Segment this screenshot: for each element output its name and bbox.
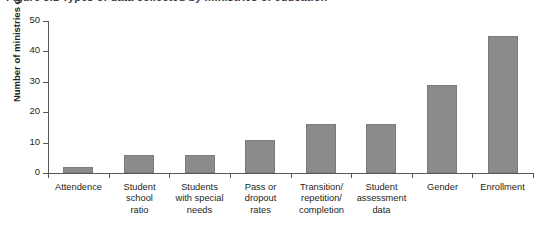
x-axis-label-line: needs <box>169 205 230 216</box>
bar <box>245 140 275 173</box>
y-tick-label: 40 <box>29 44 40 55</box>
bar <box>488 36 518 173</box>
x-axis-label-line: school <box>109 193 170 204</box>
x-tick <box>472 173 473 178</box>
x-tick <box>412 173 413 178</box>
bar <box>366 124 396 173</box>
x-axis-label-line: Pass or <box>230 182 291 193</box>
x-axis-label-line: Transition/ <box>291 182 352 193</box>
x-tick <box>351 173 352 178</box>
x-axis-label: Studentswith specialneeds <box>169 182 230 216</box>
x-axis-label-line: assessment <box>351 193 412 204</box>
x-axis-label-line: completion <box>291 205 352 216</box>
bar <box>306 124 336 173</box>
x-axis-label: Gender <box>412 182 473 193</box>
x-axis-label-line: with special <box>169 193 230 204</box>
x-axis-label-group: AttendenceStudentschoolratioStudentswith… <box>48 182 534 230</box>
x-axis-label-line: rates <box>230 205 291 216</box>
y-tick-50: 50 <box>43 21 48 22</box>
x-axis-label: Studentassessmentdata <box>351 182 412 216</box>
plot-area: 01020304050 <box>48 21 533 173</box>
bar-chart: Number of ministries of education 010203… <box>0 0 538 230</box>
y-tick-30: 30 <box>43 82 48 83</box>
x-axis-label-line: Students <box>169 182 230 193</box>
y-tick-label: 30 <box>29 75 40 86</box>
x-axis-label: Pass ordropoutrates <box>230 182 291 216</box>
y-tick-label: 50 <box>29 14 40 25</box>
x-tick <box>109 173 110 178</box>
y-tick-10: 10 <box>43 143 48 144</box>
y-tick-20: 20 <box>43 112 48 113</box>
x-tick <box>48 173 49 178</box>
bar <box>63 167 93 173</box>
x-axis-label-line: Student <box>351 182 412 193</box>
bar <box>124 155 154 173</box>
x-axis-label-line: Attendence <box>48 182 109 193</box>
x-axis-label-line: ratio <box>109 205 170 216</box>
x-axis-label: Enrollment <box>472 182 533 193</box>
bar <box>185 155 215 173</box>
y-tick-label: 0 <box>35 166 40 177</box>
x-axis-label: Transition/repetition/completion <box>291 182 352 216</box>
x-axis-label-line: data <box>351 205 412 216</box>
y-tick-label: 20 <box>29 105 40 116</box>
x-axis-label: Studentschoolratio <box>109 182 170 216</box>
x-axis-label-line: Enrollment <box>472 182 533 193</box>
x-axis-label-line: Gender <box>412 182 473 193</box>
x-axis-label: Attendence <box>48 182 109 193</box>
x-tick <box>230 173 231 178</box>
y-tick-label: 10 <box>29 136 40 147</box>
y-axis-line <box>48 21 49 174</box>
y-tick-40: 40 <box>43 51 48 52</box>
x-axis-label-line: repetition/ <box>291 193 352 204</box>
x-tick <box>169 173 170 178</box>
y-axis-title: Number of ministries of education <box>10 0 24 104</box>
x-tick <box>291 173 292 178</box>
x-axis-label-line: dropout <box>230 193 291 204</box>
bar <box>427 85 457 173</box>
x-axis-label-line: Student <box>109 182 170 193</box>
x-tick <box>533 173 534 178</box>
